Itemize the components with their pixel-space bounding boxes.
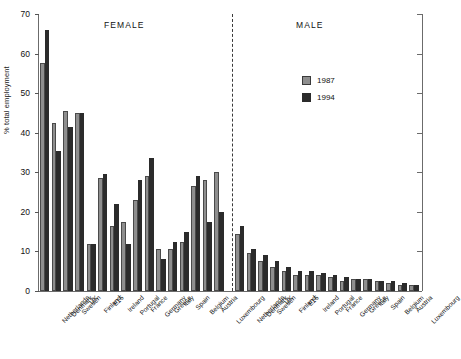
bar [196,176,201,291]
bar [298,271,303,291]
bar [379,281,384,291]
bar [91,244,96,291]
bar [275,261,280,291]
bar [402,283,407,291]
bar [207,222,212,291]
bar [138,180,143,291]
bar [161,259,166,291]
bar [333,275,338,291]
bar [414,285,419,291]
legend-swatch-1994 [302,93,311,102]
bar [263,255,268,291]
bar [126,244,131,291]
y-tick-label: 0 [10,286,30,296]
y-axis-label: % total employment [2,106,11,120]
bar [356,279,361,291]
bar [251,249,256,291]
bar [368,279,373,291]
bar [149,158,154,291]
bar [286,267,291,291]
bar [309,271,314,291]
bar [240,226,245,291]
bar [80,113,85,291]
x-tick-label: Luxembourg [430,294,461,325]
y-tick-label: 10 [10,246,30,256]
bar [103,174,108,291]
x-tick-label: E15 [306,294,319,307]
y-tick-label: 70 [10,9,30,19]
legend-label-1987: 1987 [317,76,335,85]
legend-label-1994: 1994 [317,93,335,102]
bar [344,277,349,291]
bar [45,30,50,291]
bar [184,232,189,291]
bar [391,281,396,291]
y-tick-label: 20 [10,207,30,217]
plot-area [39,14,424,291]
bar-layer [39,14,424,291]
y-tick-label: 40 [10,128,30,138]
legend: 1987 1994 [302,74,335,108]
y-tick-mark [35,291,39,292]
y-tick-label: 30 [10,167,30,177]
y-tick-label: 60 [10,49,30,59]
legend-item-1994: 1994 [302,91,335,103]
legend-item-1987: 1987 [302,74,335,86]
bar [56,151,61,291]
bar [114,204,119,291]
bar [173,242,178,291]
x-tick-label: E15 [111,294,124,307]
bar [68,127,73,291]
bar [219,212,224,291]
right-tick-mark [417,291,422,292]
bar [321,273,326,291]
x-axis-baseline [39,291,422,292]
y-tick-label: 50 [10,88,30,98]
legend-swatch-1987 [302,76,311,85]
